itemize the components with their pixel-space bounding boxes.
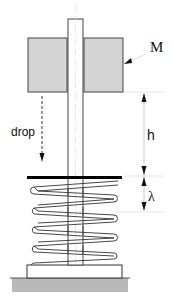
base-block <box>27 265 122 278</box>
drop-label: drop <box>11 125 35 139</box>
height-dimension: h λ <box>116 92 164 212</box>
mass-label-group: M <box>124 39 163 64</box>
ground <box>10 278 130 292</box>
guide-rod <box>68 5 83 265</box>
mass-label: M <box>150 39 163 55</box>
spring-drop-diagram: M drop h λ <box>0 0 174 301</box>
arrow-up-icon <box>142 177 147 186</box>
arrow-down-icon <box>40 153 45 162</box>
leader-arrow-icon <box>124 58 132 64</box>
drop-arrow: drop <box>11 96 45 162</box>
height-label: h <box>147 127 155 143</box>
arrow-down-icon <box>142 166 147 175</box>
compression-label: λ <box>148 189 155 204</box>
spring-plate <box>27 176 122 179</box>
arrow-down-icon <box>142 202 147 211</box>
arrow-up-icon <box>142 93 147 102</box>
